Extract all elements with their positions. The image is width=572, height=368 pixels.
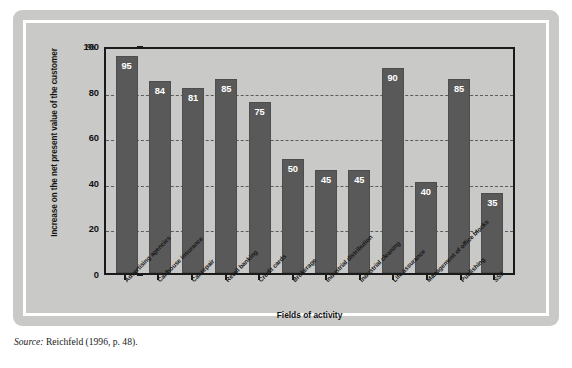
bar-value-label: 85 [216,84,236,94]
bar[interactable]: 45 [315,170,337,273]
bar-value-label: 45 [316,175,336,185]
source-prefix: Source: [14,336,43,347]
bar-slot: 35 [476,49,509,273]
bar[interactable]: 85 [215,79,237,273]
bar-value-label: 81 [183,93,203,103]
bar-value-label: 50 [283,164,303,174]
bar-slot: 40 [409,49,442,273]
bar-slot: 45 [310,49,343,273]
y-tick-label: 20 [51,224,99,234]
bar-slot: 90 [376,49,409,273]
bar-value-label: 95 [117,61,137,71]
y-tick-label: 60 [51,133,99,143]
bar-value-label: 84 [150,86,170,96]
y-tick-label: 100 [51,42,99,52]
bar-value-label: 90 [383,73,403,83]
source-caption: Source: Reichfeld (1996, p. 48). [14,336,138,347]
chart-area: Increase on the net present value of the… [13,10,559,326]
x-axis-title: Fields of activity [104,310,515,320]
bar-value-label: 35 [482,198,502,208]
figure-root: Increase on the net present value of the… [0,0,572,368]
bar-value-label: 40 [416,187,436,197]
bar-slot: 50 [276,49,309,273]
y-tick-label: 0 [51,270,99,280]
y-axis-ticks: 020406080100 [51,40,99,282]
y-tick-label: 40 [51,179,99,189]
bar-slot: 95 [110,49,143,273]
chart-panel: Increase on the net present value of the… [13,10,559,326]
source-text: Reichfeld (1996, p. 48). [46,336,138,347]
bar-slot: 85 [210,49,243,273]
bar-value-label: 45 [349,175,369,185]
y-tick-label: 80 [51,88,99,98]
bar-value-label: 75 [250,107,270,117]
bar-value-label: 85 [449,84,469,94]
bar[interactable]: 95 [116,56,138,273]
bar[interactable]: 75 [249,102,271,273]
bar-slot: 75 [243,49,276,273]
